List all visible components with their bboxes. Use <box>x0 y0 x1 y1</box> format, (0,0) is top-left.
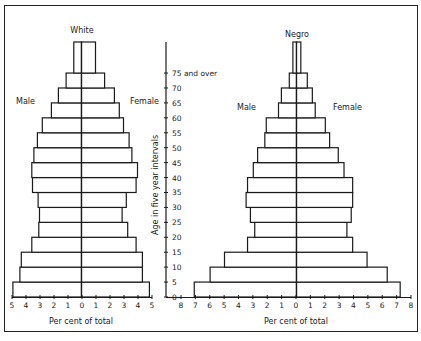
svg-text:20: 20 <box>172 233 182 242</box>
svg-text:50: 50 <box>172 144 182 153</box>
female-bar <box>82 222 128 237</box>
female-bar <box>82 133 130 148</box>
svg-text:3: 3 <box>250 301 255 310</box>
male-bar <box>42 118 81 133</box>
svg-text:40: 40 <box>172 174 182 183</box>
male-bar <box>32 237 82 252</box>
axes: 051015202530354045505560657075 and over <box>164 42 218 302</box>
female-bar <box>297 103 316 118</box>
svg-text:2: 2 <box>265 301 270 310</box>
white-male-label: Male <box>16 97 35 106</box>
male-bar <box>66 73 81 88</box>
svg-text:4: 4 <box>136 301 141 310</box>
svg-text:55: 55 <box>172 129 182 138</box>
svg-text:35: 35 <box>172 188 182 197</box>
svg-text:0: 0 <box>294 301 299 310</box>
male-bar <box>34 148 82 163</box>
female-bar <box>297 267 388 282</box>
svg-text:2: 2 <box>108 301 113 310</box>
svg-text:3: 3 <box>38 301 43 310</box>
negro-xlabel: Per cent of total <box>264 317 328 326</box>
male-bar <box>248 237 297 252</box>
negro-title: Negro <box>285 30 309 39</box>
female-bar <box>297 118 326 133</box>
negro-female-label: Female <box>333 103 362 112</box>
female-bar <box>82 207 123 222</box>
svg-text:3: 3 <box>122 301 127 310</box>
female-bar <box>297 237 353 252</box>
svg-text:2: 2 <box>52 301 57 310</box>
svg-text:45: 45 <box>172 159 182 168</box>
svg-text:5: 5 <box>10 301 15 310</box>
svg-text:5: 5 <box>365 301 370 310</box>
female-bar <box>297 163 345 178</box>
male-bar <box>210 267 296 282</box>
male-bar <box>266 118 296 133</box>
female-bar <box>82 148 132 163</box>
male-bar <box>246 192 296 207</box>
white-pyramid-bars: 54321012345 <box>10 42 155 310</box>
svg-text:25: 25 <box>172 218 182 227</box>
negro-pyramid-bars: 87654321012345678 <box>179 42 414 310</box>
svg-text:4: 4 <box>236 301 241 310</box>
svg-text:10: 10 <box>172 263 182 272</box>
svg-text:0: 0 <box>80 301 85 310</box>
svg-text:3: 3 <box>337 301 342 310</box>
female-bar <box>297 207 352 222</box>
male-bar <box>33 178 82 193</box>
male-bar <box>255 222 297 237</box>
female-bar <box>297 42 301 73</box>
white-xlabel: Per cent of total <box>49 317 113 326</box>
female-bar <box>82 252 143 267</box>
male-bar <box>250 207 296 222</box>
male-bar <box>265 133 297 148</box>
svg-text:4: 4 <box>351 301 356 310</box>
svg-text:5: 5 <box>222 301 227 310</box>
female-bar <box>297 282 401 297</box>
svg-text:0: 0 <box>172 293 177 302</box>
svg-text:65: 65 <box>172 99 182 108</box>
female-bar <box>82 73 105 88</box>
age-axis-title: Age in five year intervals <box>151 135 160 235</box>
female-bar <box>82 192 127 207</box>
male-bar <box>279 103 297 118</box>
male-bar <box>32 163 82 178</box>
svg-text:1: 1 <box>279 301 284 310</box>
svg-text:8: 8 <box>409 301 414 310</box>
svg-text:30: 30 <box>172 203 182 212</box>
female-bar <box>297 192 353 207</box>
male-bar <box>38 192 81 207</box>
female-bar <box>82 282 150 297</box>
male-bar <box>40 207 82 222</box>
female-bar <box>297 88 313 103</box>
svg-text:2: 2 <box>322 301 327 310</box>
female-bar <box>297 148 339 163</box>
male-bar <box>225 252 297 267</box>
svg-text:6: 6 <box>380 301 385 310</box>
female-bar <box>297 133 330 148</box>
male-bar <box>21 252 81 267</box>
male-bar <box>194 282 296 297</box>
male-bar <box>58 88 81 103</box>
female-bar <box>297 178 353 193</box>
male-bar <box>281 88 296 103</box>
population-pyramids: 54321012345 87654321012345678 0510152025… <box>0 0 421 341</box>
female-bar <box>82 103 120 118</box>
female-bar <box>297 222 347 237</box>
svg-text:5: 5 <box>150 301 155 310</box>
male-bar <box>39 222 82 237</box>
female-bar <box>82 42 96 73</box>
female-bar <box>82 118 124 133</box>
male-bar <box>20 267 82 282</box>
female-bar <box>82 88 115 103</box>
svg-text:6: 6 <box>207 301 212 310</box>
female-bar <box>297 73 308 88</box>
male-bar <box>253 163 296 178</box>
white-female-label: Female <box>130 97 159 106</box>
female-bar <box>82 178 137 193</box>
svg-text:60: 60 <box>172 114 182 123</box>
svg-text:70: 70 <box>172 84 182 93</box>
svg-text:7: 7 <box>394 301 399 310</box>
male-bar <box>51 103 81 118</box>
negro-male-label: Male <box>237 103 256 112</box>
